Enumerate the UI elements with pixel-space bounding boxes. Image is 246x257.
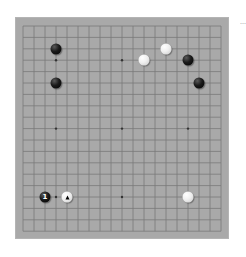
move-number-label: 1: [43, 194, 48, 201]
board-grid: [15, 17, 229, 239]
black-stone: 1: [40, 192, 51, 203]
white-stone: [161, 43, 172, 54]
star-point: [187, 127, 189, 129]
star-point: [55, 196, 57, 198]
white-stone: [62, 192, 73, 203]
side-label: …: [240, 18, 246, 44]
star-point: [121, 196, 123, 198]
last-move-triangle-icon: [65, 195, 69, 199]
black-stone: [194, 78, 205, 89]
white-stone: [183, 192, 194, 203]
white-stone: [139, 55, 150, 66]
go-board[interactable]: 1: [15, 17, 229, 239]
star-point: [55, 59, 57, 61]
star-point: [55, 127, 57, 129]
star-point: [121, 127, 123, 129]
black-stone: [51, 43, 62, 54]
black-stone: [51, 78, 62, 89]
black-stone: [183, 55, 194, 66]
star-point: [121, 59, 123, 61]
